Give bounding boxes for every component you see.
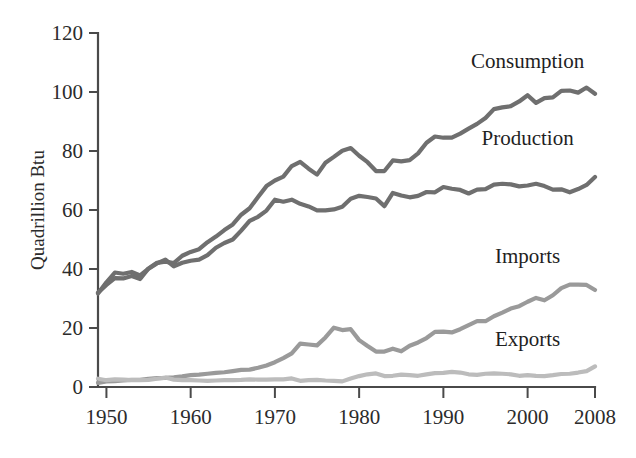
x-tick-label: 1950 (85, 405, 127, 429)
x-tick-label: 1980 (338, 405, 380, 429)
series-line-production (98, 177, 595, 294)
y-tick-label: 40 (62, 257, 83, 281)
series-label-consumption: Consumption (471, 49, 585, 73)
series-line-exports (98, 366, 595, 381)
chart-canvas: Quadrillion Btu 020406080100120 19501960… (0, 0, 636, 458)
x-tick-label: 2000 (507, 405, 549, 429)
y-tick-label: 20 (62, 316, 83, 340)
series-label-exports: Exports (495, 327, 560, 351)
y-tick-label: 0 (73, 375, 84, 399)
y-axis-ticks: 020406080100120 (52, 21, 99, 399)
y-axis-title-label: Quadrillion Btu (27, 150, 48, 270)
x-axis-ticks: 1950196019701980199020002008 (85, 387, 616, 429)
series-label-imports: Imports (495, 244, 560, 268)
series-label-production: Production (482, 126, 575, 150)
x-tick-label: 1960 (170, 405, 212, 429)
y-tick-label: 80 (62, 139, 83, 163)
y-tick-label: 100 (52, 80, 84, 104)
x-tick-label: 1990 (422, 405, 464, 429)
y-tick-label: 60 (62, 198, 83, 222)
x-tick-label: 2008 (574, 405, 616, 429)
energy-overview-chart: Quadrillion Btu 020406080100120 19501960… (0, 0, 636, 458)
y-tick-label: 120 (52, 21, 84, 45)
y-axis-title: Quadrillion Btu (27, 150, 48, 270)
x-tick-label: 1970 (254, 405, 296, 429)
